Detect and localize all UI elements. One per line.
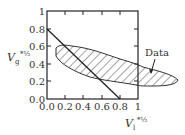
ytick-label: 0.6 (29, 41, 45, 52)
xtick-label: 0.2 (57, 101, 73, 112)
data-annotation: Data (145, 47, 169, 58)
xtick-label: 1 (135, 101, 141, 112)
ytick-label: 1 (39, 6, 45, 17)
xtick-label: 0.4 (75, 101, 91, 112)
ytick-label: 0.4 (29, 59, 45, 70)
chart: 0.0 0.2 0.4 0.6 0.8 1 0.0 0.2 0.4 0.6 0.… (0, 0, 185, 135)
xtick-label: 0.0 (39, 101, 55, 112)
ytick-label: 0.2 (29, 76, 45, 87)
svg-text:l: l (133, 124, 136, 132)
x-axis-label: V l *½ (125, 116, 148, 132)
svg-text:*½: *½ (20, 50, 31, 58)
y-axis-label: V g *½ (7, 50, 31, 66)
xtick-label: 0.8 (112, 101, 128, 112)
svg-text:*½: *½ (137, 116, 148, 124)
svg-text:g: g (15, 58, 20, 66)
xtick-label: 0.6 (94, 101, 110, 112)
ytick-label: 0.8 (29, 24, 45, 35)
